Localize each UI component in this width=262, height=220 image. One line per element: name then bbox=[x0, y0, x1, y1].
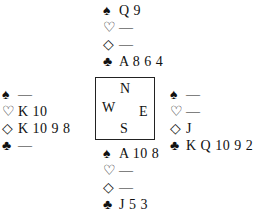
spade-icon: ♠ bbox=[170, 86, 186, 103]
east-spades: ♠— bbox=[170, 86, 253, 103]
diamond-icon: ◇ bbox=[103, 36, 119, 53]
west-hearts: ♡K 10 bbox=[2, 103, 71, 120]
south-spades: ♠A 10 8 bbox=[103, 145, 159, 162]
west-hand: ♠— ♡K 10 ◇K 10 9 8 ♣— bbox=[2, 86, 71, 154]
east-clubs: ♣K Q 10 9 2 bbox=[170, 137, 253, 154]
heart-icon: ♡ bbox=[103, 162, 119, 179]
compass-south: S bbox=[120, 121, 128, 137]
heart-icon: ♡ bbox=[103, 19, 119, 36]
north-hand: ♠Q 9 ♡— ◇— ♣A 8 6 4 bbox=[103, 2, 163, 70]
north-clubs: ♣A 8 6 4 bbox=[103, 53, 163, 70]
club-icon: ♣ bbox=[103, 196, 119, 213]
diamond-icon: ◇ bbox=[103, 179, 119, 196]
north-spades: ♠Q 9 bbox=[103, 2, 163, 19]
west-spades: ♠— bbox=[2, 86, 71, 103]
compass-west: W bbox=[102, 100, 115, 116]
south-clubs: ♣J 5 3 bbox=[103, 196, 159, 213]
west-clubs: ♣— bbox=[2, 137, 71, 154]
west-diamonds: ◇K 10 9 8 bbox=[2, 120, 71, 137]
diamond-icon: ◇ bbox=[2, 120, 18, 137]
east-diamonds: ◇J bbox=[170, 120, 253, 137]
compass-box: N W E S bbox=[95, 77, 155, 140]
south-hand: ♠A 10 8 ♡— ◇— ♣J 5 3 bbox=[103, 145, 159, 213]
south-diamonds: ◇— bbox=[103, 179, 159, 196]
spade-icon: ♠ bbox=[103, 2, 119, 19]
east-hand: ♠— ♡— ◇J ♣K Q 10 9 2 bbox=[170, 86, 253, 154]
spade-icon: ♠ bbox=[2, 86, 18, 103]
east-hearts: ♡— bbox=[170, 103, 253, 120]
south-hearts: ♡— bbox=[103, 162, 159, 179]
heart-icon: ♡ bbox=[2, 103, 18, 120]
compass-north: N bbox=[120, 81, 130, 97]
heart-icon: ♡ bbox=[170, 103, 186, 120]
north-hearts: ♡— bbox=[103, 19, 163, 36]
club-icon: ♣ bbox=[2, 137, 18, 154]
compass-east: E bbox=[139, 104, 148, 120]
north-diamonds: ◇— bbox=[103, 36, 163, 53]
club-icon: ♣ bbox=[103, 53, 119, 70]
diamond-icon: ◇ bbox=[170, 120, 186, 137]
spade-icon: ♠ bbox=[103, 145, 119, 162]
club-icon: ♣ bbox=[170, 137, 186, 154]
